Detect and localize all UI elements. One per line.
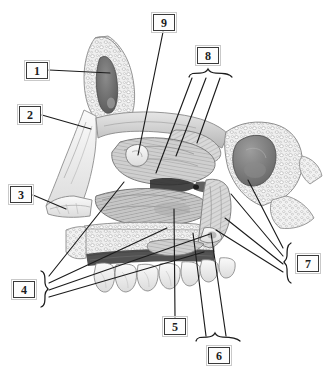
label-box-5[interactable]: 5 xyxy=(164,318,186,335)
label-box-6[interactable]: 6 xyxy=(208,347,230,364)
label-box-9[interactable]: 9 xyxy=(153,14,175,31)
label-box-1[interactable]: 1 xyxy=(26,62,48,79)
label-box-7[interactable]: 7 xyxy=(297,255,319,272)
label-box-2[interactable]: 2 xyxy=(19,106,41,123)
anatomical-figure: 1 2 3 4 5 6 7 8 9 xyxy=(0,0,325,372)
label-box-8[interactable]: 8 xyxy=(197,47,219,64)
label-box-4[interactable]: 4 xyxy=(13,281,35,298)
label-box-3[interactable]: 3 xyxy=(10,186,32,203)
nasal-cavity-sagittal-section-illustration xyxy=(0,0,325,372)
foramen-marker xyxy=(193,184,199,189)
